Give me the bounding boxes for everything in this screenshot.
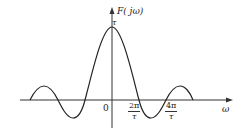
tick-numerator: 4π [165, 102, 177, 112]
peak-label: τ [112, 19, 116, 27]
tick-4pi-over-tau: 4π τ [165, 102, 177, 121]
tick-2pi-over-tau: 2π τ [128, 102, 140, 121]
origin-label: 0 [103, 104, 109, 113]
y-axis-label: F( jω) [117, 7, 143, 16]
x-axis-arrow-icon [226, 98, 233, 103]
tick-denominator: τ [169, 112, 173, 121]
tick-numerator: 2π [128, 102, 140, 112]
x-axis-label: ω [222, 105, 229, 114]
y-axis-arrow-icon [110, 7, 115, 14]
spectrum-plot [0, 0, 242, 135]
tick-denominator: τ [132, 112, 136, 121]
